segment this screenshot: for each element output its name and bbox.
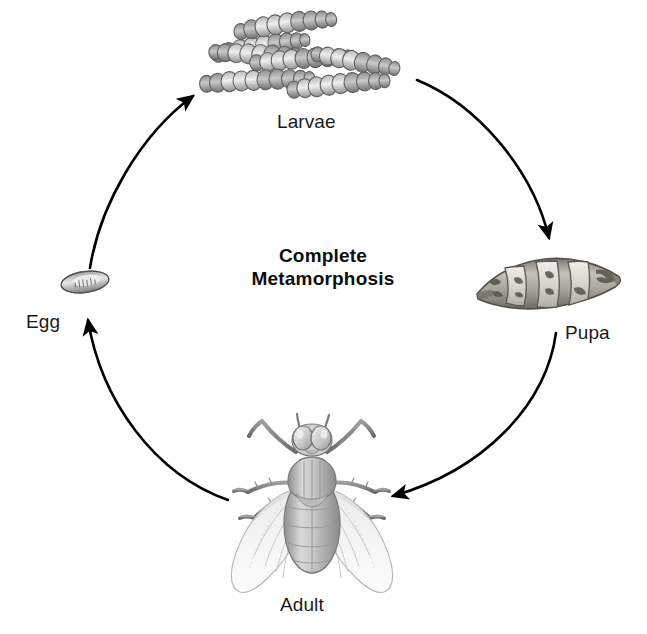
metamorphosis-diagram: Complete Metamorphosis Larvae Pupa Adult… <box>0 0 647 634</box>
larvae-cluster-illustration <box>199 7 401 99</box>
egg-illustration <box>60 268 110 295</box>
stage-label-larvae: Larvae <box>277 111 336 132</box>
title-line-1: Complete <box>173 244 473 267</box>
arrow-pupa-to-adult <box>393 333 556 496</box>
title-line-2: Metamorphosis <box>173 267 473 290</box>
left-eye <box>293 426 313 450</box>
pupa-illustration <box>477 258 620 308</box>
right-eye <box>311 426 331 450</box>
stage-label-adult: Adult <box>280 594 324 615</box>
adult-fly-illustration <box>231 414 392 592</box>
arrow-larvae-to-pupa <box>417 80 549 238</box>
stage-label-egg: Egg <box>26 311 60 332</box>
page-title: Complete Metamorphosis <box>173 244 473 290</box>
stage-label-pupa: Pupa <box>565 322 610 343</box>
arrow-egg-to-larvae <box>90 96 193 268</box>
life-cycle-illustration <box>0 0 647 634</box>
arrow-adult-to-egg <box>88 320 228 500</box>
